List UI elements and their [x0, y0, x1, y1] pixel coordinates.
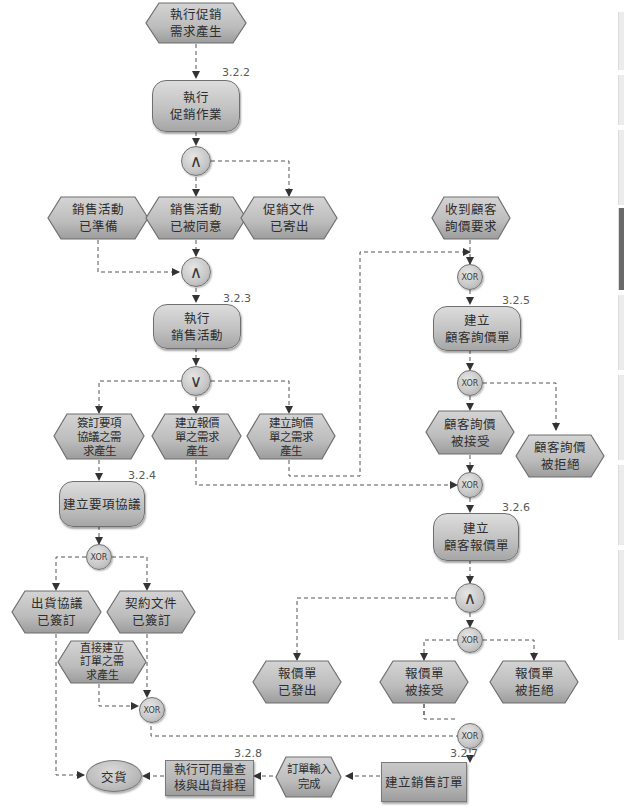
function-3-2-5: 建立 顧客詢價單: [433, 306, 521, 351]
function-number: 3.2.7: [450, 747, 478, 760]
function-3-2-2: 執行 促銷作業: [152, 80, 240, 132]
side-tab: [618, 375, 624, 460]
and-gateway: ∧: [181, 257, 211, 287]
side-tab: [618, 130, 624, 205]
xor-gateway: XOR: [457, 472, 483, 498]
function-3-2-3: 執行 銷售活動: [153, 304, 241, 349]
function-number: 3.2.8: [234, 747, 262, 760]
function-3-2-6: 建立 顧客報價單: [433, 513, 519, 561]
side-tab: [618, 75, 624, 125]
event-quote-need: 建立報價 單之需求 產生: [151, 413, 242, 460]
xor-gateway: XOR: [457, 627, 483, 653]
xor-label: XOR: [462, 273, 479, 282]
xor-gateway: XOR: [457, 370, 483, 396]
side-tab-active: [618, 208, 624, 290]
event-label: 建立報價 單之需求 產生: [175, 416, 219, 458]
event-label: 銷售活動 已被同意: [170, 201, 222, 235]
event-label: 建立詢價 單之需求 產生: [269, 416, 313, 458]
function-label: 建立銷售訂單: [385, 774, 463, 791]
event-label: 報價單 被接受: [405, 665, 444, 699]
event-label: 促銷文件 已寄出: [263, 201, 315, 235]
event-label: 銷售活動 已準備: [72, 201, 124, 235]
event-direct-order-need: 直接建立 訂單之需 求產生: [57, 640, 147, 684]
xor-label: XOR: [462, 379, 479, 388]
event-label: 顧客詢價 被接受: [444, 416, 496, 450]
event-sales-approved: 銷售活動 已被同意: [145, 196, 247, 240]
page-side-tabs: [617, 0, 624, 809]
side-tab: [618, 12, 624, 70]
and-gateway: ∧: [455, 583, 485, 613]
event-label: 出貨協議 已簽訂: [31, 595, 83, 629]
event-contract-signed: 契約文件 已簽訂: [106, 590, 196, 634]
xor-gateway: XOR: [139, 697, 165, 723]
event-sales-ready: 銷售活動 已準備: [47, 196, 149, 240]
event-sign-terms-need: 簽訂要項 協議之需 求產生: [53, 413, 145, 460]
event-ship-agreement-signed: 出貨協議 已簽訂: [11, 590, 102, 634]
event-promo-need: 執行促銷 需求產生: [145, 2, 247, 44]
function-label: 執行 促銷作業: [170, 89, 222, 123]
side-tab: [618, 465, 624, 545]
function-number: 3.2.2: [222, 66, 250, 79]
event-inquiry-need: 建立詢價 單之需求 產生: [246, 413, 336, 460]
event-quote-rejected: 報價單 被拒絕: [489, 660, 579, 704]
function-number: 3.2.6: [502, 501, 530, 514]
function-label: 執行可用量查 核與出貨排程: [174, 762, 246, 794]
event-label: 訂單輸入 完成: [287, 762, 331, 792]
epc-diagram: 執行促銷 需求產生 銷售活動 已準備 銷售活動 已被同意 促銷文件 已寄出 簽訂…: [0, 0, 624, 809]
xor-label: XOR: [462, 636, 479, 645]
function-3-2-4: 建立要項協議: [59, 481, 145, 527]
event-quote-sent: 報價單 已發出: [252, 660, 342, 704]
and-icon: ∧: [190, 151, 202, 171]
event-inquiry-accepted: 顧客詢價 被接受: [425, 410, 515, 455]
xor-label: XOR: [91, 553, 108, 562]
xor-label: XOR: [462, 732, 479, 741]
terminal-label: 交貨: [101, 767, 127, 786]
and-gateway: ∧: [181, 146, 211, 176]
side-tab: [618, 550, 624, 640]
xor-label: XOR: [144, 706, 161, 715]
function-number: 3.2.3: [223, 292, 251, 305]
terminal-delivery: 交貨: [86, 760, 142, 792]
event-order-entry-done: 訂單輸入 完成: [275, 756, 342, 798]
function-number: 3.2.5: [502, 294, 530, 307]
event-label: 報價單 已發出: [278, 665, 317, 699]
event-quote-accepted: 報價單 被接受: [379, 660, 469, 704]
function-label: 執行 銷售活動: [171, 310, 223, 344]
xor-gateway: XOR: [86, 544, 112, 570]
xor-gateway: XOR: [457, 264, 483, 290]
or-icon: ∨: [190, 371, 202, 391]
function-label: 建立 顧客報價單: [444, 520, 509, 554]
event-label: 簽訂要項 協議之需 求產生: [77, 416, 121, 458]
function-label: 建立要項協議: [63, 496, 141, 513]
side-tab: [618, 295, 624, 370]
function-number: 3.2.4: [128, 469, 156, 482]
xor-gateway: XOR: [457, 723, 483, 749]
event-label: 契約文件 已簽訂: [125, 595, 177, 629]
xor-label: XOR: [462, 481, 479, 490]
event-label: 報價單 被拒絕: [515, 665, 554, 699]
event-label: 顧客詢價 被拒絕: [534, 439, 586, 473]
event-label: 執行促銷 需求產生: [170, 6, 222, 40]
and-icon: ∧: [190, 262, 202, 282]
function-3-2-7: 建立銷售訂單: [381, 762, 467, 802]
or-gateway: ∨: [181, 366, 211, 396]
event-promo-docs-sent: 促銷文件 已寄出: [240, 196, 338, 240]
function-3-2-8: 執行可用量查 核與出貨排程: [165, 760, 254, 796]
event-label: 直接建立 訂單之需 求產生: [80, 642, 124, 683]
and-icon: ∧: [464, 588, 476, 608]
event-label: 收到顧客 詢價要求: [445, 201, 497, 235]
event-inquiry-rejected: 顧客詢價 被拒絕: [515, 434, 605, 478]
function-label: 建立 顧客詢價單: [445, 312, 510, 346]
event-customer-inquiry-received: 收到顧客 詢價要求: [431, 196, 511, 240]
